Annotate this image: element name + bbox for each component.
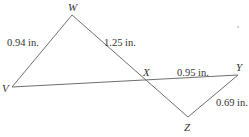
stray-dot	[237, 26, 239, 28]
segment-yz	[188, 75, 238, 117]
vertex-label-z: Z	[184, 121, 191, 133]
measure-wv: 0.94 in.	[7, 37, 39, 48]
measure-xy: 0.95 in.	[177, 67, 209, 78]
measure-wx: 1.25 in.	[104, 37, 136, 48]
segment-wz	[72, 15, 188, 117]
vertex-label-w: W	[68, 1, 78, 13]
geometry-diagram: W V X Y Z 0.94 in. 1.25 in. 0.95 in. 0.6…	[0, 0, 249, 137]
measure-yz: 0.69 in.	[216, 97, 248, 108]
segment-wv	[12, 15, 72, 87]
vertex-label-v: V	[2, 82, 10, 94]
vertex-label-y: Y	[236, 61, 244, 73]
diagram-svg: W V X Y Z 0.94 in. 1.25 in. 0.95 in. 0.6…	[0, 0, 249, 137]
vertex-label-x: X	[142, 66, 151, 78]
